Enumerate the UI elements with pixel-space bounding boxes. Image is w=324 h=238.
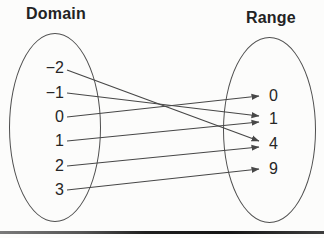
range-value-2: 4 bbox=[269, 135, 278, 153]
domain-value-3: 1 bbox=[30, 132, 64, 150]
domain-value-2: 0 bbox=[30, 108, 64, 126]
domain-label: Domain bbox=[26, 5, 86, 23]
mapping-diagram: Domain Range −2−101230149 bbox=[0, 0, 324, 238]
range-label: Range bbox=[246, 9, 296, 27]
domain-value-0: −2 bbox=[30, 59, 64, 77]
range-value-3: 9 bbox=[269, 160, 278, 178]
domain-value-4: 2 bbox=[30, 157, 64, 175]
range-value-1: 1 bbox=[269, 110, 278, 128]
range-ellipse bbox=[223, 37, 316, 223]
domain-value-1: −1 bbox=[30, 84, 64, 102]
domain-value-5: 3 bbox=[30, 181, 64, 199]
bottom-rule bbox=[0, 231, 324, 234]
range-value-0: 0 bbox=[269, 87, 278, 105]
